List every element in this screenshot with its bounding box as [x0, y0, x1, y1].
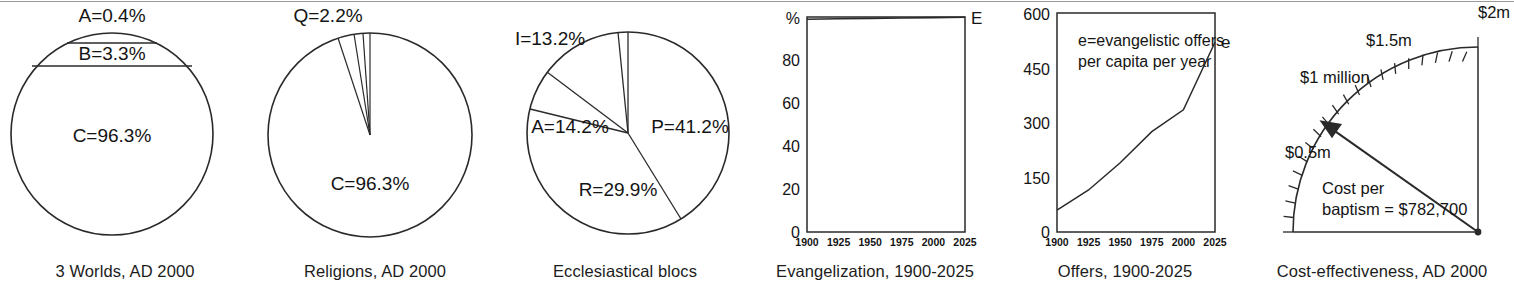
gauge-label-2m: $2m: [1478, 3, 1510, 21]
offers-chart-svg: 600 450 300 150 0 1900 1925 1950 1975 20…: [1000, 0, 1250, 260]
gauge-tick: [1435, 52, 1437, 63]
panel-cost-effectiveness: $0.5m $1 million $1.5m $2m Cost per bapt…: [1250, 0, 1514, 293]
y-tick-20: 20: [782, 181, 800, 198]
x-tick-1950: 1950: [1109, 236, 1133, 248]
pie-sep-p-r: [628, 133, 681, 219]
three-worlds-pie-svg: A=0.4% B=3.3% C=96.3%: [0, 0, 250, 260]
y-tick-40: 40: [782, 138, 800, 155]
x-tick-1925: 1925: [827, 236, 851, 248]
pie-label-p: P=41.2%: [651, 116, 729, 137]
gauge-note-line-2: baptism = $782,700: [1322, 200, 1467, 218]
pie-sep-1: [338, 38, 370, 135]
caption-ecclesiastical-blocs: Ecclesiastical blocs: [500, 262, 750, 281]
pie-sep-i-sliver: [618, 33, 628, 134]
y-tick-600: 600: [1023, 6, 1050, 23]
plot-frame: [807, 17, 965, 232]
series-label-e: e: [1221, 33, 1230, 52]
x-tick-2000: 2000: [922, 236, 946, 248]
gauge-needle-arrowhead: [1320, 120, 1343, 138]
pie-label-a: A=14.2%: [531, 116, 609, 137]
caption-evangelization: Evangelization, 1900-2025: [750, 262, 1000, 281]
panel-religions: Q=2.2% C=96.3% Religions, AD 2000: [250, 0, 500, 293]
gauge-label-1-5m: $1.5m: [1366, 31, 1412, 49]
y-tick-450: 450: [1023, 61, 1050, 78]
x-tick-1975: 1975: [890, 236, 914, 248]
caption-offers: Offers, 1900-2025: [1000, 262, 1250, 281]
gauge-tick: [1449, 51, 1452, 61]
gauge-tick: [1395, 63, 1396, 74]
caption-three-worlds: 3 Worlds, AD 2000: [0, 262, 250, 281]
panel-evangelization: % 80 60 40 20 0 1900 1925 1950 1975 2000…: [750, 0, 1000, 293]
gauge-tick: [1285, 201, 1295, 203]
pie-sep-3: [363, 34, 370, 136]
x-tick-1975: 1975: [1140, 236, 1164, 248]
panel-ecclesiastical-blocs: I=13.2% A=14.2% R=29.9% P=41.2% Ecclesia…: [500, 0, 750, 293]
gauge-pivot: [1475, 229, 1482, 236]
annotation-line-2: per capita per year: [1078, 53, 1212, 70]
gauge-tick: [1293, 171, 1302, 176]
x-tick-2025: 2025: [953, 236, 977, 248]
annotation-line-1: e=evangelistic offers: [1078, 32, 1224, 49]
x-tick-1950: 1950: [859, 236, 883, 248]
x-tick-2000: 2000: [1172, 236, 1196, 248]
pie-label-a: A=0.4%: [78, 5, 145, 26]
x-tick-2025: 2025: [1203, 236, 1227, 248]
panel-offers: 600 450 300 150 0 1900 1925 1950 1975 20…: [1000, 0, 1250, 293]
y-tick-80: 80: [782, 52, 800, 69]
gauge-tick: [1463, 52, 1467, 62]
pie-sep-2: [354, 34, 370, 135]
panel-three-worlds: A=0.4% B=3.3% C=96.3% 3 Worlds, AD 2000: [0, 0, 250, 293]
pie-label-q: Q=2.2%: [293, 5, 362, 26]
gauge-tick: [1284, 216, 1294, 217]
y-tick-150: 150: [1023, 170, 1050, 187]
pie-label-c: C=96.3%: [73, 125, 152, 146]
figure-root: A=0.4% B=3.3% C=96.3% 3 Worlds, AD 2000 …: [0, 0, 1514, 293]
x-tick-1900: 1900: [1045, 236, 1069, 248]
cost-effectiveness-gauge-svg: $0.5m $1 million $1.5m $2m Cost per bapt…: [1250, 0, 1514, 260]
y-tick-percent: %: [786, 10, 800, 27]
gauge-tick: [1313, 129, 1321, 137]
caption-religions: Religions, AD 2000: [250, 262, 500, 281]
gauge-tick: [1289, 186, 1299, 189]
pie-label-c: C=96.3%: [331, 173, 410, 194]
pie-label-b: B=3.3%: [78, 43, 145, 64]
series-label-E: E: [971, 9, 982, 28]
gauge-note-line-1: Cost per: [1322, 179, 1385, 197]
gauge-label-1-million: $1 million: [1300, 68, 1370, 86]
evangelization-chart-svg: % 80 60 40 20 0 1900 1925 1950 1975 2000…: [750, 0, 1000, 260]
gauge-label-0-5m: $0.5m: [1285, 143, 1331, 161]
x-tick-1925: 1925: [1077, 236, 1101, 248]
religions-pie-svg: Q=2.2% C=96.3%: [250, 0, 500, 260]
y-tick-60: 60: [782, 95, 800, 112]
x-tick-1900: 1900: [795, 236, 819, 248]
pie-label-r: R=29.9%: [579, 179, 658, 200]
pie-label-i: I=13.2%: [515, 28, 585, 49]
ecclesiastical-pie-svg: I=13.2% A=14.2% R=29.9% P=41.2%: [500, 0, 750, 260]
y-tick-300: 300: [1023, 115, 1050, 132]
caption-cost-effectiveness: Cost-effectiveness, AD 2000: [1250, 262, 1514, 281]
